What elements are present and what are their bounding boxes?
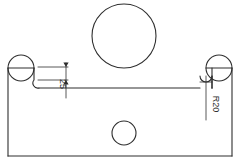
radius-callout-label: R20: [211, 96, 221, 113]
small-bore-circle: [112, 121, 136, 145]
large-bore-circle: [92, 4, 156, 68]
radius-callout-group: [200, 76, 212, 120]
technical-drawing-canvas: 25 R20: [0, 0, 238, 168]
depth-dimension-label: 25: [58, 79, 68, 89]
drawing-viewport: 25 R20: [0, 0, 238, 168]
dim-arrowhead-upper: [63, 63, 68, 67]
